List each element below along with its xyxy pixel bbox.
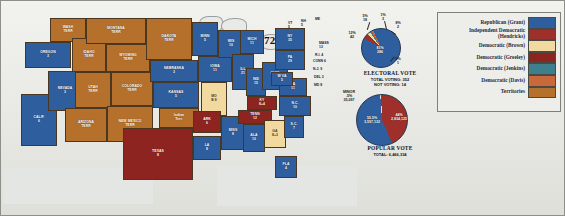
state-kansas: KANSAS5 bbox=[153, 82, 199, 108]
legend-color-swatch bbox=[528, 40, 556, 52]
electoral-not-voting: NOT VOTING: 14 bbox=[340, 82, 440, 87]
popular-vote-title: POPULAR VOTE bbox=[340, 145, 440, 152]
state-s-c-: S.C.7 bbox=[284, 116, 304, 138]
electoral-label-81pct-286: 81% 286 bbox=[366, 47, 394, 55]
legend-color-swatch bbox=[528, 17, 556, 29]
popular-label-grant: 55.5% 3,597,132 bbox=[359, 117, 385, 125]
state-label: UTAH TERR bbox=[88, 86, 98, 93]
legend-color-swatch bbox=[528, 52, 556, 64]
state-electoral-votes: 5 bbox=[175, 95, 177, 99]
state-montana-terr: MONTANA TERR bbox=[86, 18, 146, 44]
state-utah-terr: UTAH TERR bbox=[75, 72, 111, 108]
state-electoral-votes: 3 bbox=[64, 91, 66, 95]
state-electoral-votes: 21 bbox=[241, 72, 245, 76]
electoral-label-5pct-1: 5% 1 bbox=[392, 58, 404, 66]
legend-item-4[interactable]: Democratic (Jenkins) bbox=[441, 63, 556, 75]
legend-color-swatch bbox=[528, 87, 556, 99]
state-electoral-votes: 8 bbox=[206, 148, 208, 152]
state-electoral-votes: 3 bbox=[47, 55, 49, 59]
state-label-vt-5: VT 5 bbox=[288, 22, 292, 29]
state-label-r-i--4: R.I. 4 bbox=[315, 54, 323, 58]
legend-item-6[interactable]: Territories bbox=[441, 87, 556, 99]
state-mich: MICH11 bbox=[240, 30, 264, 54]
state-minn: MINN5 bbox=[192, 22, 218, 56]
state-ark: ARK6 bbox=[193, 111, 221, 133]
state-label-n-j--9: N.J. 9 bbox=[313, 68, 322, 72]
electoral-vote-title: ELECTORAL VOTE bbox=[340, 70, 440, 77]
state-electoral-votes: 10 bbox=[293, 106, 297, 110]
legend-item-2[interactable]: Democratic (Brown) bbox=[441, 40, 556, 52]
state-electoral-votes: 4 bbox=[285, 167, 287, 171]
legend-color-swatch bbox=[528, 29, 556, 41]
election-map-figure: 1872 WASH TERROREGON3CALIF.6NEVADA3IDAHO… bbox=[0, 0, 565, 216]
state-la: LA8 bbox=[193, 136, 221, 160]
state-electoral-votes: 8 bbox=[157, 154, 159, 158]
legend-color-swatch bbox=[528, 63, 556, 75]
vote-statistics-panel: 5% 18 1% 3 8% 2 5% 1 12% 42 81% 286 ELEC… bbox=[344, 14, 436, 204]
state-ny: NY35 bbox=[275, 28, 305, 50]
state-label: DAKOTA TERR bbox=[162, 35, 177, 42]
leader-line-1 bbox=[367, 22, 370, 30]
state-electoral-votes: 12 bbox=[253, 117, 257, 121]
state-arizona-terr: ARIZONA TERR bbox=[65, 108, 107, 142]
state-electoral-votes: 11 bbox=[213, 69, 217, 73]
state-label-mass-13: MASS 13 bbox=[319, 42, 329, 49]
state-ky: KY8+4 bbox=[247, 96, 277, 110]
state-ga: GA8+3 bbox=[264, 120, 286, 148]
state-label: NEW MEXICO TERR bbox=[118, 120, 141, 127]
state-ala: ALA10 bbox=[243, 124, 265, 152]
legend-item-3[interactable]: Democratic (Greeley) bbox=[441, 52, 556, 64]
state-electoral-votes: 8+3 bbox=[272, 134, 278, 138]
state-electoral-votes: B 8 bbox=[211, 99, 217, 103]
state-electoral-votes: 15 bbox=[254, 82, 258, 86]
state-w-va: W VA5 bbox=[271, 72, 293, 86]
state-electoral-votes: 6 bbox=[38, 120, 40, 124]
state-electoral-votes: 10 bbox=[229, 44, 233, 48]
state-wyoming-terr: WYOMING TERR bbox=[106, 44, 150, 72]
legend: Republican (Grant)Independent Democratic… bbox=[437, 12, 561, 112]
state-dakota-terr: DAKOTA TERR bbox=[146, 18, 192, 60]
state-label-me: ME bbox=[315, 18, 320, 22]
state-label-del-3: DEL 3 bbox=[314, 76, 324, 80]
legend-item-label: Territories bbox=[441, 89, 528, 95]
state-texas: TEXAS8 bbox=[123, 128, 193, 180]
electoral-label-8pct-2: 8% 2 bbox=[392, 22, 404, 30]
state-label: COLORADO TERR bbox=[122, 85, 143, 92]
state-label: ARIZONA TERR bbox=[78, 121, 94, 128]
legend-item-label: Democratic (Brown) bbox=[441, 43, 528, 49]
legend-item-label: Independent Democratic (Hendricks) bbox=[441, 28, 528, 40]
state-electoral-votes: 6 bbox=[206, 122, 208, 126]
state-electoral-votes: 11 bbox=[250, 42, 254, 46]
legend-item-label: Republican (Grant) bbox=[441, 20, 528, 26]
state-label-nh-5: NH 5 bbox=[301, 20, 306, 27]
state-fla: FLA4 bbox=[275, 156, 297, 178]
state-n-c-: N.C.10 bbox=[279, 96, 311, 116]
state-label: WASH TERR bbox=[63, 26, 74, 33]
legend-item-label: Democratic (Greeley) bbox=[441, 55, 528, 61]
legend-item-label: Democratic (Davis) bbox=[441, 78, 528, 84]
legend-item-1[interactable]: Independent Democratic (Hendricks) bbox=[441, 29, 556, 41]
state-electoral-votes: 8+4 bbox=[259, 103, 265, 107]
state-oregon: OREGON3 bbox=[25, 42, 71, 68]
state-electoral-votes: 3 bbox=[173, 71, 175, 75]
popular-label-minor: MINOR .5% 35,097 bbox=[338, 91, 360, 102]
state-electoral-votes: 5 bbox=[204, 39, 206, 43]
state-nebraska: NEBRASKA3 bbox=[150, 60, 198, 82]
legend-item-label: Democratic (Jenkins) bbox=[441, 66, 528, 72]
state-pa: PA29 bbox=[275, 50, 305, 70]
us-map: 1872 WASH TERROREGON3CALIF.6NEVADA3IDAHO… bbox=[3, 16, 343, 202]
state-label: Indian Terr. bbox=[174, 114, 185, 121]
popular-label-greeley: 44% 2,834,125 bbox=[386, 114, 412, 122]
state-label: IDAHO TERR bbox=[83, 51, 94, 58]
state-electoral-votes: 8 bbox=[232, 133, 234, 137]
state-label-md-8: MD 8 bbox=[314, 84, 322, 88]
state-iowa: IOWA11 bbox=[198, 56, 232, 82]
state-label-conn-6: CONN 6 bbox=[313, 60, 326, 64]
state-label: MONTANA TERR bbox=[107, 27, 125, 34]
state-electoral-votes: 35 bbox=[288, 39, 292, 43]
legend-item-5[interactable]: Democratic (Davis) bbox=[441, 75, 556, 87]
state-label: WYOMING TERR bbox=[119, 54, 137, 61]
state-colorado-terr: COLORADO TERR bbox=[111, 72, 153, 106]
state-electoral-votes: 11 bbox=[291, 87, 295, 91]
state-electoral-votes: 10 bbox=[252, 138, 256, 142]
